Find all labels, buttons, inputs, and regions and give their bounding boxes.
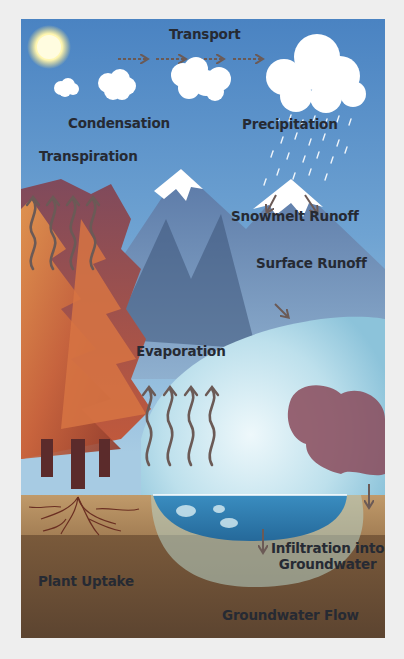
label-plant-uptake: Plant Uptake bbox=[38, 573, 134, 589]
label-infiltration-line1: Infiltration into bbox=[271, 540, 384, 556]
sun-icon bbox=[27, 25, 71, 69]
label-groundwater-flow: Groundwater Flow bbox=[222, 607, 359, 623]
label-snowmelt-runoff: Snowmelt Runoff bbox=[231, 208, 359, 224]
label-infiltration: Infiltration into Groundwater bbox=[271, 540, 384, 572]
label-precipitation: Precipitation bbox=[242, 116, 338, 132]
label-transpiration: Transpiration bbox=[39, 148, 138, 164]
label-condensation: Condensation bbox=[68, 115, 170, 131]
water-cycle-diagram: Transport Condensation Precipitation Tra… bbox=[21, 19, 385, 638]
label-evaporation: Evaporation bbox=[136, 343, 226, 359]
label-infiltration-line2: Groundwater bbox=[271, 556, 384, 572]
label-transport: Transport bbox=[169, 26, 240, 42]
label-surface-runoff: Surface Runoff bbox=[256, 255, 367, 271]
